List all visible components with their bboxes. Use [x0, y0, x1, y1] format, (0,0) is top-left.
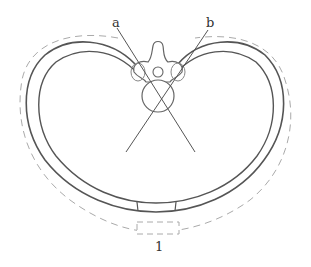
label-b: b: [206, 16, 214, 29]
axis-line-b: [126, 30, 208, 152]
label-a: a: [112, 16, 120, 29]
dashed-sternum-box: [137, 222, 179, 234]
thorax-diagram: [0, 0, 311, 267]
label-1: 1: [155, 240, 163, 253]
spinal-canal: [153, 67, 163, 77]
vertebral-body: [142, 80, 174, 112]
